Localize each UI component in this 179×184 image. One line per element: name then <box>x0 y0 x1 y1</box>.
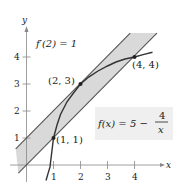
y-tick-label: 4 <box>14 52 20 62</box>
derivative-label: f′(2) = 1 <box>35 38 77 49</box>
point-2-3 <box>79 82 83 86</box>
y-tick-label: 2 <box>14 106 20 116</box>
y-tick-label: 3 <box>14 79 20 89</box>
x-axis-arrow-icon <box>160 163 165 167</box>
point-label: (1, 1) <box>56 134 83 145</box>
function-label-denominator: x <box>158 124 164 135</box>
function-label: f(x) = 5 − <box>97 118 148 129</box>
function-label-numerator: 4 <box>159 110 165 121</box>
x-axis-label: x <box>166 160 171 170</box>
x-tick-label: 4 <box>132 172 138 182</box>
x-tick-label: 3 <box>105 172 111 182</box>
x-tick-label: 1 <box>51 172 57 182</box>
point-label: (2, 3) <box>48 75 75 86</box>
secant-line <box>18 33 157 173</box>
y-axis-label: y <box>21 15 28 25</box>
y-axis-arrow-icon <box>25 26 29 32</box>
x-tick-label: 2 <box>78 172 84 182</box>
point-1-1 <box>52 136 56 140</box>
graph: 1 2 3 4 1 2 3 4 x y (1, 1) (2, 3) (4, 4)… <box>0 0 179 184</box>
point-label: (4, 4) <box>132 59 159 70</box>
y-tick-label: 1 <box>14 133 20 143</box>
